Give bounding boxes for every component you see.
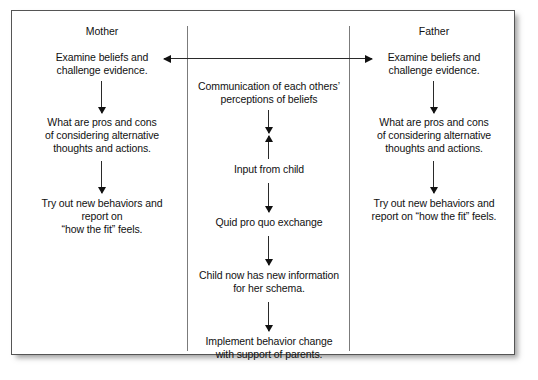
diagram-panel: Mother Father Examine beliefs and challe… xyxy=(11,10,515,355)
diagram-root: Mother Father Examine beliefs and challe… xyxy=(0,0,538,380)
center-step-1-text: Communication of each others’ perception… xyxy=(180,80,358,106)
father-step-3-text: Try out new behaviors and report on “how… xyxy=(352,197,516,223)
center-step-3-text: Quid pro quo exchange xyxy=(180,216,358,229)
mother-step-3-text: Try out new behaviors and report on “how… xyxy=(18,197,186,237)
column-header-mother: Mother xyxy=(18,25,186,38)
column-divider-right xyxy=(349,26,350,351)
mother-step-2-text: What are pros and cons of considering al… xyxy=(18,116,186,156)
column-divider-left xyxy=(187,26,188,351)
center-arrow-down-3 xyxy=(268,236,269,265)
center-arrow-down-1 xyxy=(268,110,269,133)
father-arrow-1 xyxy=(433,81,434,113)
center-arrow-up-1 xyxy=(268,136,269,159)
center-step-2-text: Input from child xyxy=(180,163,358,176)
father-step-2-text: What are pros and cons of considering al… xyxy=(352,116,516,156)
mother-step-1-text: Examine beliefs and challenge evidence. xyxy=(18,51,186,77)
father-arrow-2 xyxy=(433,161,434,193)
bidirectional-arrow-mother-father xyxy=(164,58,372,59)
center-step-4-text: Child now has new information for her sc… xyxy=(180,269,358,295)
column-header-father: Father xyxy=(352,25,516,38)
center-step-5-text: Implement behavior change with support o… xyxy=(180,335,358,361)
center-arrow-down-4 xyxy=(268,302,269,331)
mother-arrow-2 xyxy=(101,161,102,193)
father-step-1-text: Examine beliefs and challenge evidence. xyxy=(352,51,516,77)
mother-arrow-1 xyxy=(101,81,102,113)
center-arrow-down-2 xyxy=(268,183,269,212)
